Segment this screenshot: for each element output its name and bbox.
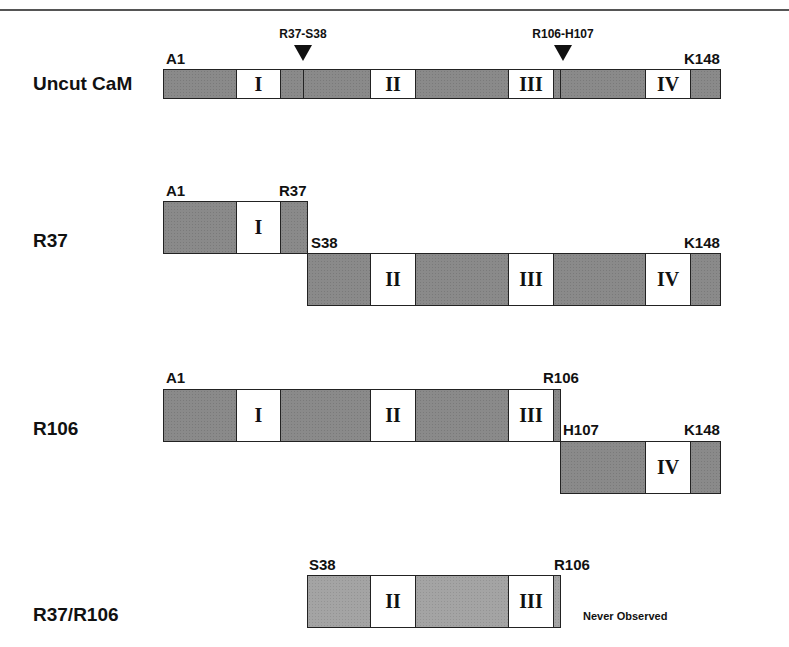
residue-tag: R37 xyxy=(279,183,307,199)
domain-ii: II xyxy=(371,576,416,627)
linker-segment xyxy=(281,202,307,253)
linker-segment xyxy=(308,576,371,627)
cut-site-label-r106-h107: R106-H107 xyxy=(532,27,593,41)
cut-site-arrow-icon xyxy=(554,45,572,61)
row-label-r37: R37 xyxy=(33,231,68,251)
domain-ii: II xyxy=(371,70,416,98)
residue-tag: R106 xyxy=(543,370,579,386)
linker-segment xyxy=(164,390,237,441)
domain-iii: III xyxy=(509,576,554,627)
linker-segment xyxy=(554,390,560,441)
cut-site-arrow-icon xyxy=(294,45,312,61)
cut-site-label-r37-s38: R37-S38 xyxy=(279,27,326,41)
domain-iii: III xyxy=(509,390,554,441)
domain-iii: III xyxy=(509,254,554,305)
domain-iv: IV xyxy=(646,70,691,98)
linker-segment xyxy=(416,576,509,627)
linker-segment xyxy=(561,70,646,98)
domain-iii: III xyxy=(509,70,554,98)
domain-i: I xyxy=(237,390,281,441)
domain-iv: IV xyxy=(646,442,691,493)
fragment-1-37: I xyxy=(163,201,308,254)
protein-bar-uncut: I II III IV xyxy=(163,69,721,99)
residue-tag: A1 xyxy=(166,183,185,199)
residue-tag: H107 xyxy=(563,422,599,438)
linker-segment xyxy=(281,70,304,98)
residue-tag: A1 xyxy=(166,51,185,67)
domain-i: I xyxy=(237,202,281,253)
top-rule xyxy=(0,9,789,11)
residue-tag: K148 xyxy=(684,235,720,251)
linker-segment xyxy=(554,254,646,305)
fragment-1-106: I II III xyxy=(163,389,561,442)
residue-tag: R106 xyxy=(554,557,590,573)
residue-tag: S38 xyxy=(311,235,338,251)
never-observed-note: Never Observed xyxy=(583,610,667,622)
fragment-38-106: II III xyxy=(307,575,561,628)
linker-segment xyxy=(561,442,646,493)
linker-segment xyxy=(554,576,560,627)
linker-segment xyxy=(281,390,371,441)
residue-tag: A1 xyxy=(166,370,185,386)
linker-segment xyxy=(164,70,237,98)
row-label-r37-r106: R37/R106 xyxy=(33,605,119,625)
linker-segment xyxy=(304,70,371,98)
row-label-uncut: Uncut CaM xyxy=(33,74,132,94)
linker-segment xyxy=(416,390,509,441)
residue-tag: K148 xyxy=(684,422,720,438)
linker-segment xyxy=(691,442,720,493)
linker-segment xyxy=(691,70,720,98)
linker-segment xyxy=(308,254,371,305)
linker-segment xyxy=(164,202,237,253)
residue-tag: K148 xyxy=(684,51,720,67)
domain-ii: II xyxy=(371,390,416,441)
domain-ii: II xyxy=(371,254,416,305)
domain-i: I xyxy=(237,70,281,98)
fragment-107-148: IV xyxy=(560,441,721,494)
linker-segment xyxy=(416,254,509,305)
fragment-38-148: II III IV xyxy=(307,253,721,306)
residue-tag: S38 xyxy=(309,557,336,573)
domain-iv: IV xyxy=(646,254,691,305)
linker-segment xyxy=(691,254,720,305)
linker-segment xyxy=(554,70,561,98)
linker-segment xyxy=(416,70,509,98)
row-label-r106: R106 xyxy=(33,419,78,439)
